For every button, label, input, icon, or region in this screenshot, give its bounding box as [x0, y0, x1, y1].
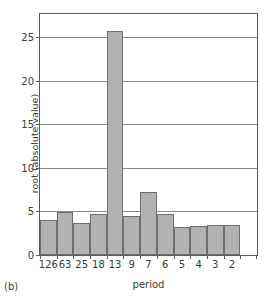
x-tick-mark [207, 255, 208, 259]
plot-area: 0510152025 126632518139765432 [39, 13, 258, 256]
x-tick-mark [107, 255, 108, 259]
x-tick-mark [90, 255, 91, 259]
x-tick-label: 2 [229, 259, 235, 270]
x-tick-label: 7 [145, 259, 151, 270]
x-tick-mark [140, 255, 141, 259]
x-tick-label: 18 [92, 259, 105, 270]
figure-panel-b: root (absolute value) 0510152025 1266325… [0, 0, 269, 299]
bar [224, 225, 241, 255]
x-tick-mark [123, 255, 124, 259]
bar [157, 214, 174, 255]
x-axis-title: period [39, 279, 258, 290]
bar [40, 220, 57, 255]
x-tick-label: 9 [129, 259, 135, 270]
bar [57, 212, 74, 256]
x-tick-label: 13 [109, 259, 122, 270]
bar [190, 226, 207, 255]
x-tick-label: 63 [59, 259, 72, 270]
x-tick-mark [240, 255, 241, 259]
x-tick-mark [174, 255, 175, 259]
y-tick-label: 15 [21, 119, 34, 130]
y-tick-label: 25 [21, 32, 34, 43]
x-tick-label: 4 [195, 259, 201, 270]
bar [123, 216, 140, 255]
bar [207, 225, 224, 255]
bar [174, 227, 191, 255]
x-tick-label: 6 [162, 259, 168, 270]
x-tick-mark [256, 255, 257, 259]
y-tick-label: 20 [21, 75, 34, 86]
x-tick-label: 126 [39, 259, 58, 270]
x-tick-label: 25 [75, 259, 88, 270]
x-tick-label: 3 [212, 259, 218, 270]
bar [90, 214, 107, 255]
x-tick-mark [73, 255, 74, 259]
bar [107, 31, 124, 255]
bar [73, 223, 90, 255]
bar [140, 192, 157, 256]
bar-series [40, 14, 257, 255]
x-tick-mark [157, 255, 158, 259]
y-tick-label: 0 [28, 250, 34, 261]
x-tick-label: 5 [179, 259, 185, 270]
y-tick-label: 10 [21, 162, 34, 173]
y-tick-label: 5 [28, 206, 34, 217]
panel-label: (b) [4, 281, 18, 292]
x-tick-mark [224, 255, 225, 259]
x-tick-mark [190, 255, 191, 259]
